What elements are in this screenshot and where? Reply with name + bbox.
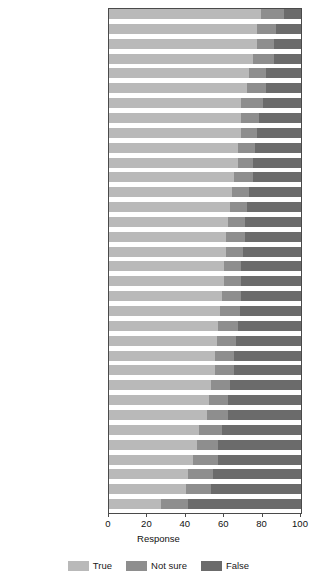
bar-segment-true	[109, 484, 186, 494]
stacked-bar	[109, 143, 301, 153]
bar-segment-true	[109, 336, 217, 346]
bar-segment-true	[109, 24, 257, 34]
bar-segment-false	[218, 455, 301, 465]
bar-segment-true	[109, 469, 188, 479]
stacked-bar	[109, 24, 301, 34]
bar-segment-notsure	[211, 380, 230, 390]
bar-segment-false	[266, 68, 301, 78]
bar-segment-true	[109, 410, 207, 420]
bar-segment-false	[230, 380, 301, 390]
bar-segment-true	[109, 321, 218, 331]
bar-row	[109, 484, 301, 494]
stacked-bar	[109, 247, 301, 257]
plot-area	[108, 8, 302, 514]
bar-row	[109, 158, 301, 168]
stacked-bar	[109, 54, 301, 64]
true-swatch-icon	[68, 561, 89, 571]
stacked-bar	[109, 217, 301, 227]
bar-row	[109, 217, 301, 227]
bar-segment-notsure	[238, 143, 255, 153]
bar-segment-true	[109, 261, 224, 271]
stacked-bar	[109, 351, 301, 361]
bar-segment-notsure	[224, 276, 241, 286]
bar-row	[109, 83, 301, 93]
bar-row	[109, 291, 301, 301]
x-tick	[108, 513, 109, 517]
bar-segment-notsure	[241, 113, 258, 123]
bar-segment-true	[109, 351, 215, 361]
bar-segment-false	[241, 291, 301, 301]
bar-segment-notsure	[226, 247, 243, 257]
bar-segment-true	[109, 68, 249, 78]
stacked-bar	[109, 202, 301, 212]
stacked-bar	[109, 39, 301, 49]
bar-segment-true	[109, 39, 257, 49]
bar-row	[109, 232, 301, 242]
stacked-bar	[109, 172, 301, 182]
bar-row	[109, 380, 301, 390]
x-tick-label: 80	[256, 518, 267, 529]
bar-segment-false	[234, 365, 301, 375]
bar-segment-true	[109, 202, 230, 212]
false-swatch-icon	[201, 561, 222, 571]
bar-row	[109, 321, 301, 331]
bar-segment-false	[274, 39, 301, 49]
bar-segment-false	[211, 484, 301, 494]
bar-row	[109, 202, 301, 212]
stacked-bar	[109, 68, 301, 78]
stacked-bar	[109, 306, 301, 316]
bar-segment-false	[241, 276, 301, 286]
bar-row	[109, 128, 301, 138]
bar-row	[109, 469, 301, 479]
stacked-bar	[109, 380, 301, 390]
bar-row	[109, 261, 301, 271]
legend-item-false: False	[201, 560, 249, 571]
bar-row	[109, 395, 301, 405]
stacked-bar	[109, 291, 301, 301]
bar-row	[109, 351, 301, 361]
bar-segment-false	[240, 306, 301, 316]
bar-segment-false	[188, 499, 301, 509]
stacked-bar-chart: 020406080100 Response True Not sure Fals…	[0, 0, 317, 585]
bar-segment-true	[109, 143, 238, 153]
x-tick-label: 40	[180, 518, 191, 529]
bar-row	[109, 143, 301, 153]
bar-segment-false	[243, 247, 301, 257]
bar-row	[109, 24, 301, 34]
stacked-bar	[109, 321, 301, 331]
bar-segment-notsure	[249, 68, 266, 78]
bar-segment-false	[259, 113, 301, 123]
bar-segment-notsure	[247, 83, 266, 93]
bar-row	[109, 425, 301, 435]
bar-segment-notsure	[215, 351, 234, 361]
bar-segment-false	[276, 24, 301, 34]
bar-segment-notsure	[232, 187, 249, 197]
bar-segment-notsure	[218, 321, 237, 331]
bar-row	[109, 336, 301, 346]
bar-row	[109, 306, 301, 316]
bar-segment-false	[284, 9, 301, 19]
bar-segment-notsure	[253, 54, 274, 64]
stacked-bar	[109, 113, 301, 123]
bar-row	[109, 39, 301, 49]
bar-segment-notsure	[230, 202, 247, 212]
stacked-bar	[109, 261, 301, 271]
bar-segment-false	[218, 440, 301, 450]
stacked-bar	[109, 425, 301, 435]
bar-segment-true	[109, 499, 161, 509]
bar-segment-false	[274, 54, 301, 64]
bar-segment-true	[109, 83, 247, 93]
bar-segment-true	[109, 172, 234, 182]
bar-row	[109, 455, 301, 465]
x-tick	[300, 513, 301, 517]
bar-segment-true	[109, 276, 224, 286]
bar-segment-true	[109, 232, 226, 242]
legend-item-true: True	[68, 560, 112, 571]
x-tick-label: 100	[292, 518, 308, 529]
chart-legend: True Not sure False	[0, 560, 317, 571]
bar-segment-notsure	[197, 440, 218, 450]
legend-label-false: False	[226, 560, 249, 571]
bar-segment-notsure	[222, 291, 241, 301]
bar-segment-false	[213, 469, 301, 479]
bar-row	[109, 172, 301, 182]
